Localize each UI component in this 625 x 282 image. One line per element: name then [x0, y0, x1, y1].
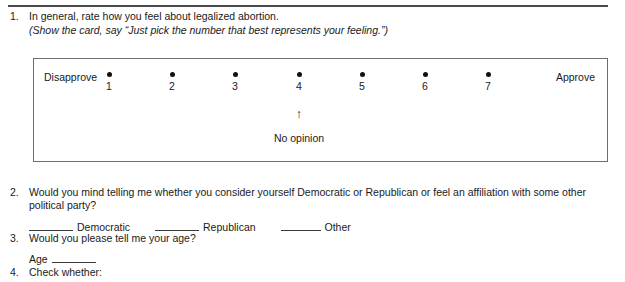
question-2-number: 2. — [10, 186, 26, 199]
scale-dot-icon — [170, 72, 175, 77]
scale-point-3[interactable]: 3 — [223, 69, 247, 93]
scale-point-5[interactable]: 5 — [350, 69, 374, 93]
scale-dot-icon — [486, 72, 491, 77]
scale-dot-icon — [423, 72, 428, 77]
no-opinion-annotation: ↑ No opinion — [239, 107, 359, 145]
scale-point-5-number: 5 — [350, 80, 374, 93]
question-1-text: In general, rate how you feel about lega… — [29, 10, 279, 22]
scale-high-label: Approve — [556, 71, 595, 83]
scale-point-4-number: 4 — [287, 80, 311, 93]
scale-point-1-number: 1 — [97, 80, 121, 93]
age-blank-input[interactable] — [52, 253, 96, 263]
scale-low-label: Disapprove — [44, 71, 97, 83]
question-3: 3. Would you please tell me your age? Ag… — [10, 232, 610, 266]
age-field-row: Age — [29, 252, 610, 266]
scale-point-6[interactable]: 6 — [413, 69, 437, 93]
question-1-number: 1. — [10, 10, 26, 23]
question-2: 2. Would you mind telling me whether you… — [10, 186, 610, 234]
other-blank-input[interactable] — [281, 221, 321, 231]
question-3-number: 3. — [10, 232, 26, 245]
scale-point-6-number: 6 — [413, 80, 437, 93]
scale-dot-icon — [360, 72, 365, 77]
scale-dot-icon — [297, 72, 302, 77]
scale-point-2-number: 2 — [160, 80, 184, 93]
question-2-text: Would you mind telling me whether you co… — [29, 186, 610, 212]
scale-point-7[interactable]: 7 — [476, 69, 500, 93]
question-4-number: 4. — [10, 266, 26, 279]
question-4: 4. Check whether: — [10, 266, 610, 279]
question-1: 1. In general, rate how you feel about l… — [10, 10, 610, 37]
no-opinion-label: No opinion — [239, 131, 359, 145]
republican-blank-input[interactable] — [155, 221, 199, 231]
top-divider-rule — [8, 5, 608, 7]
scale-dot-icon — [233, 72, 238, 77]
up-arrow-icon: ↑ — [239, 107, 359, 121]
survey-page: 1. In general, rate how you feel about l… — [0, 0, 625, 282]
scale-point-4[interactable]: 4 — [287, 69, 311, 93]
scale-point-2[interactable]: 2 — [160, 69, 184, 93]
scale-dot-icon — [107, 72, 112, 77]
scale-point-7-number: 7 — [476, 80, 500, 93]
question-4-text: Check whether: — [29, 266, 610, 279]
age-field-label: Age — [29, 253, 48, 265]
rating-scale-box: Disapprove Approve 1 2 3 4 5 6 7 — [33, 58, 608, 162]
scale-point-1[interactable]: 1 — [97, 69, 121, 93]
question-1-instruction: (Show the card, say “Just pick the numbe… — [29, 23, 610, 37]
question-3-text: Would you please tell me your age? — [29, 232, 610, 245]
scale-point-3-number: 3 — [223, 80, 247, 93]
democratic-blank-input[interactable] — [29, 221, 73, 231]
